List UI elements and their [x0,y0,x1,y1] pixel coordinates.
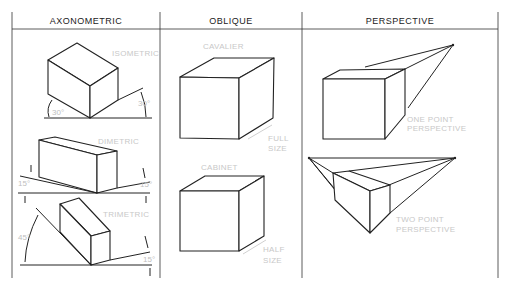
trimetric-angle-left: 45° [18,233,30,242]
trimetric-label: TRIMETRIC [103,210,149,219]
vp-line-right [405,45,453,69]
isometric-angle-left: 30° [52,108,64,117]
cabinet-front-face [180,191,239,251]
two-point-right-face [370,185,390,233]
one-point-label-line1: ONE POINT [407,115,454,124]
vp-left-line-top [309,158,333,173]
header-perspective: PERSPECTIVE [366,16,435,26]
one-point-side-face [385,69,405,139]
cabinet-drawing [180,176,266,254]
dimetric-angle-left: 15° [18,179,30,188]
trimetric-arrow-right [145,236,148,248]
cavalier-drawing [180,58,274,139]
isometric-label: ISOMETRIC [112,49,159,58]
trimetric-right-face [91,231,110,265]
header-oblique: OBLIQUE [209,16,253,26]
two-point-label-line2: PERSPECTIVE [396,225,455,234]
vp-right-line-bottom [390,158,455,213]
cabinet-note-line2: SIZE [263,256,282,265]
cavalier-note-line1: FULL [268,134,289,143]
dimetric-arrow-right [143,168,145,178]
isometric-angle-right: 30° [138,99,150,108]
cavalier-note-line2: SIZE [268,144,287,153]
two-point-label-line1: TWO POINT [396,215,444,224]
header-axonometric: AXONOMETRIC [50,16,123,26]
cabinet-label: CABINET [201,163,238,172]
dimetric-drawing [18,137,150,203]
cabinet-note-line1: HALF [263,245,285,254]
vanishing-point-right [454,157,456,159]
one-point-label-line2: PERSPECTIVE [407,124,466,133]
cavalier-front-face [180,77,239,139]
vanishing-point [452,44,454,46]
projection-types-diagram: AXONOMETRIC OBLIQUE PERSPECTIVE ISOMETRI… [0,0,513,292]
dimetric-angle-right: 15° [140,180,152,189]
trimetric-angle-right: 15° [143,255,155,264]
cavalier-label: CAVALIER [203,42,244,51]
dimetric-label: DIMETRIC [98,137,139,146]
dimetric-right-face [97,151,117,193]
one-point-front-face [323,79,385,139]
vanishing-point-left [308,157,310,159]
